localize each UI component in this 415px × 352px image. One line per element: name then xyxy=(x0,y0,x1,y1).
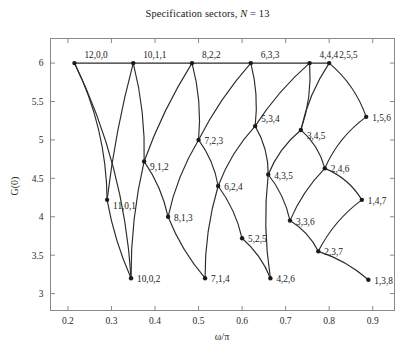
sector-curve xyxy=(251,63,257,126)
y-axis-label: G(0) xyxy=(9,177,21,196)
x-tick-label: 0.3 xyxy=(106,316,118,326)
sector-curve xyxy=(301,63,329,130)
data-point[interactable] xyxy=(105,198,109,202)
data-point[interactable] xyxy=(307,61,311,65)
data-point-label: 6,3,3 xyxy=(261,50,280,60)
sector-curve xyxy=(290,168,325,220)
y-tick-label: 5.5 xyxy=(32,97,44,107)
data-point-label: 2,3,7 xyxy=(324,247,343,257)
sector-curve xyxy=(325,117,366,168)
data-point-label: 12,0,0 xyxy=(84,50,108,60)
sector-curve xyxy=(218,186,242,238)
data-point-label: 2,4,6 xyxy=(331,164,350,174)
data-point-labels: 12,0,010,1,18,2,26,3,34,4,42,5,511,0,19,… xyxy=(84,50,393,286)
sector-curve xyxy=(199,140,219,186)
sector-curve xyxy=(168,217,205,278)
data-point[interactable] xyxy=(249,61,253,65)
data-point[interactable] xyxy=(268,276,272,280)
data-point[interactable] xyxy=(216,184,220,188)
data-point[interactable] xyxy=(366,278,370,282)
data-point[interactable] xyxy=(203,276,207,280)
x-tick-label: 0.4 xyxy=(149,316,161,326)
sector-curve xyxy=(318,200,362,251)
x-tick-label: 0.6 xyxy=(236,316,248,326)
sector-curve xyxy=(107,63,133,200)
x-tick-label: 0.7 xyxy=(280,316,292,326)
data-point[interactable] xyxy=(299,128,303,132)
data-point-label: 6,2,4 xyxy=(224,182,243,192)
y-tick-label: 3.5 xyxy=(32,251,44,261)
y-axis-ticks: 33.544.555.56 xyxy=(32,58,395,299)
sector-curve xyxy=(74,63,131,278)
sector-curve xyxy=(144,63,192,161)
sector-curve xyxy=(329,63,366,117)
data-point-label: 1,5,6 xyxy=(372,113,391,123)
data-point-label: 7,1,4 xyxy=(211,274,230,284)
data-point[interactable] xyxy=(364,115,368,119)
scatter-plot: 0.20.30.40.50.60.70.80.9 33.544.555.56 1… xyxy=(0,0,415,352)
y-tick-label: 4.5 xyxy=(32,174,44,184)
data-point[interactable] xyxy=(316,249,320,253)
data-point-label: 4,4,4 xyxy=(320,50,339,60)
data-point-label: 10,1,1 xyxy=(143,50,167,60)
sector-curve xyxy=(199,63,251,140)
x-tick-label: 0.9 xyxy=(367,316,379,326)
sector-curve xyxy=(205,186,218,278)
sector-curve xyxy=(255,126,268,174)
data-point[interactable] xyxy=(360,198,364,202)
sector-curve xyxy=(168,140,198,217)
data-point[interactable] xyxy=(142,159,146,163)
data-point[interactable] xyxy=(129,276,133,280)
sector-curve xyxy=(218,126,255,186)
data-point-label: 4,3,5 xyxy=(274,171,293,181)
figure-container: Specification sectors, N = 13 0.20.30.40… xyxy=(0,0,415,352)
data-point-label: 1,3,8 xyxy=(374,276,393,286)
data-point-label: 5,3,4 xyxy=(261,114,280,124)
data-point-label: 9,1,2 xyxy=(150,162,169,172)
data-point-label: 5,2,5 xyxy=(248,234,267,244)
data-point-label: 11,0,1 xyxy=(113,201,136,211)
x-tick-label: 0.8 xyxy=(323,316,335,326)
data-point-label: 8,2,2 xyxy=(202,50,221,60)
data-point[interactable] xyxy=(266,172,270,176)
data-point[interactable] xyxy=(72,61,76,65)
data-point[interactable] xyxy=(190,61,194,65)
y-tick-label: 6 xyxy=(39,58,44,68)
sector-curve xyxy=(131,161,144,278)
y-tick-label: 3 xyxy=(39,289,44,299)
data-point[interactable] xyxy=(253,124,257,128)
data-point-label: 3,3,6 xyxy=(296,217,315,227)
sector-curve xyxy=(268,130,301,175)
data-point-label: 7,2,3 xyxy=(205,136,224,146)
data-point-label: 4,2,6 xyxy=(276,274,295,284)
data-point[interactable] xyxy=(327,61,331,65)
data-point[interactable] xyxy=(131,61,135,65)
data-point-label: 1,4,7 xyxy=(368,196,387,206)
sector-curve xyxy=(192,63,200,140)
data-point[interactable] xyxy=(196,138,200,142)
sector-curve xyxy=(268,175,290,221)
sector-curve xyxy=(301,63,310,130)
y-tick-label: 4 xyxy=(39,212,44,222)
x-axis-label: ω/π xyxy=(215,331,229,342)
x-tick-label: 0.5 xyxy=(193,316,205,326)
data-point-label: 2,5,5 xyxy=(339,50,358,60)
data-point-label: 10,0,2 xyxy=(137,274,161,284)
sector-curve xyxy=(133,63,144,161)
data-point[interactable] xyxy=(166,215,170,219)
data-point[interactable] xyxy=(288,218,292,222)
y-tick-label: 5 xyxy=(39,135,44,145)
data-point[interactable] xyxy=(240,236,244,240)
data-point-label: 3,4,5 xyxy=(307,131,326,141)
sector-curve xyxy=(266,175,271,279)
x-tick-label: 0.2 xyxy=(62,316,74,326)
data-point-label: 8,1,3 xyxy=(174,213,193,223)
data-point[interactable] xyxy=(323,166,327,170)
